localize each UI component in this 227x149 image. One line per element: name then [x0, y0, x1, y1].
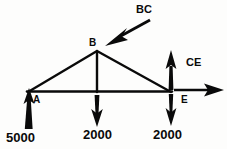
force-label-5000: 5000	[6, 131, 35, 144]
force-arrow-2000-right	[166, 94, 177, 126]
truss-diagram: A B E BC CE 5000 2000 2000	[0, 0, 227, 149]
force-arrow-ce	[166, 50, 177, 90]
arrow-2000-right-shaft	[169, 94, 173, 114]
member-label-bc: BC	[136, 4, 152, 15]
node-label-b: B	[89, 38, 96, 48]
member-ab	[28, 51, 97, 92]
truss-drawing	[0, 0, 227, 149]
force-arrow-2000-center	[91, 95, 103, 127]
node-label-a: A	[33, 95, 40, 105]
arrow-ce-shaft	[169, 66, 174, 90]
truss-members	[27, 51, 172, 92]
member-be	[97, 51, 171, 92]
force-arrow-bc-pointer	[105, 20, 150, 46]
member-label-ce: CE	[186, 57, 201, 68]
arrow-bc-head	[105, 28, 128, 46]
force-label-2000-right: 2000	[153, 128, 182, 141]
node-label-e: E	[181, 95, 188, 105]
force-label-2000-center: 2000	[83, 128, 112, 141]
arrow-bc-shaft	[119, 20, 150, 37]
